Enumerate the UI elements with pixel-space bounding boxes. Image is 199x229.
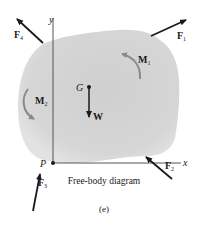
force-f3-label: F3 — [38, 177, 47, 189]
figure-label: (e) — [99, 204, 109, 214]
free-body-diagram: y x P G W F4 F1 F2 F3 M1 M2 Free-body di… — [0, 0, 199, 229]
point-g-label: G — [76, 82, 83, 93]
diagram-caption: Free-body diagram — [68, 176, 141, 186]
point-p — [51, 161, 55, 165]
force-f4-label: F4 — [14, 29, 23, 41]
force-f1-label: F1 — [177, 30, 186, 42]
weight-label: W — [93, 111, 103, 122]
point-p-label: P — [39, 158, 46, 169]
force-f2-label: F2 — [165, 160, 174, 172]
y-axis-label: y — [48, 14, 54, 25]
x-axis-label: x — [182, 157, 188, 168]
